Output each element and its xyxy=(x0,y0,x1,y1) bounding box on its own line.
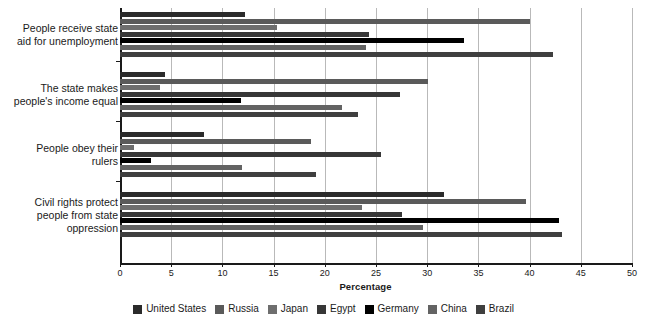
legend-swatch-icon xyxy=(476,305,485,314)
bar xyxy=(120,98,241,103)
bar xyxy=(120,225,423,230)
legend: United StatesRussiaJapanEgyptGermanyChin… xyxy=(0,303,647,315)
legend-label: Germany xyxy=(378,303,419,315)
x-tick-label: 10 xyxy=(217,268,227,279)
legend-item-brazil[interactable]: Brazil xyxy=(476,303,514,315)
legend-swatch-icon xyxy=(133,305,142,314)
bar xyxy=(120,19,530,24)
x-tick-mark xyxy=(478,263,479,267)
category-label-line: rulers xyxy=(6,155,118,168)
legend-item-united-states[interactable]: United States xyxy=(133,303,206,315)
legend-label: China xyxy=(441,303,467,315)
x-tick-mark xyxy=(120,263,121,267)
x-tick-label: 5 xyxy=(169,268,174,279)
category-label-line: People obey their xyxy=(6,142,118,155)
bar xyxy=(120,45,366,50)
bar xyxy=(120,192,444,197)
x-tick-mark xyxy=(274,263,275,267)
bar-group xyxy=(120,132,632,178)
legend-item-russia[interactable]: Russia xyxy=(215,303,259,315)
legend-swatch-icon xyxy=(428,305,437,314)
bar xyxy=(120,32,369,37)
x-tick-mark xyxy=(376,263,377,267)
plot-area xyxy=(120,8,632,263)
bar xyxy=(120,212,402,217)
x-axis-title: Percentage xyxy=(0,281,647,292)
category-label-line: People receive state xyxy=(6,22,118,35)
bar xyxy=(120,112,358,117)
category-label-line: aid for unemployment xyxy=(6,35,118,48)
category-tick xyxy=(116,61,120,62)
x-tick-mark xyxy=(530,263,531,267)
x-tick-label: 30 xyxy=(422,268,432,279)
x-tick-mark xyxy=(427,263,428,267)
legend-label: Russia xyxy=(228,303,259,315)
category-label: The state makespeople's income equal xyxy=(6,82,118,108)
x-tick-label: 45 xyxy=(576,268,586,279)
x-tick-label: 35 xyxy=(473,268,483,279)
bar xyxy=(120,85,160,90)
legend-swatch-icon xyxy=(317,305,326,314)
legend-item-japan[interactable]: Japan xyxy=(268,303,308,315)
legend-label: Japan xyxy=(281,303,308,315)
x-tick-label: 50 xyxy=(627,268,637,279)
x-tick-label: 40 xyxy=(525,268,535,279)
gridline-50 xyxy=(632,8,633,263)
legend-label: Brazil xyxy=(489,303,514,315)
bar xyxy=(120,72,165,77)
bar xyxy=(120,205,362,210)
category-label-line: oppression xyxy=(6,222,118,235)
legend-item-germany[interactable]: Germany xyxy=(365,303,419,315)
bar xyxy=(120,12,245,17)
legend-swatch-icon xyxy=(215,305,224,314)
x-tick-mark xyxy=(632,263,633,267)
legend-item-china[interactable]: China xyxy=(428,303,467,315)
legend-label: United States xyxy=(146,303,206,315)
bar-group xyxy=(120,192,632,238)
bar xyxy=(120,158,151,163)
category-label: People obey theirrulers xyxy=(6,142,118,168)
x-tick-mark xyxy=(171,263,172,267)
legend-swatch-icon xyxy=(365,305,374,314)
bar-group xyxy=(120,72,632,118)
bar xyxy=(120,79,428,84)
legend-swatch-icon xyxy=(268,305,277,314)
bar xyxy=(120,218,559,223)
category-label-line: The state makes xyxy=(6,82,118,95)
category-tick xyxy=(116,121,120,122)
category-label-line: people's income equal xyxy=(6,95,118,108)
bar xyxy=(120,232,562,237)
category-label-line: people from state xyxy=(6,209,118,222)
legend-label: Egypt xyxy=(330,303,356,315)
category-label: People receive stateaid for unemployment xyxy=(6,22,118,48)
x-tick-label: 25 xyxy=(371,268,381,279)
bar xyxy=(120,199,526,204)
category-tick xyxy=(116,181,120,182)
bar xyxy=(120,52,553,57)
x-tick-label: 0 xyxy=(117,268,122,279)
bar xyxy=(120,145,134,150)
bar xyxy=(120,25,277,30)
bar xyxy=(120,105,342,110)
legend-item-egypt[interactable]: Egypt xyxy=(317,303,356,315)
bar xyxy=(120,132,204,137)
x-tick-mark xyxy=(325,263,326,267)
category-label: Civil rights protectpeople from stateopp… xyxy=(6,196,118,235)
bar xyxy=(120,38,464,43)
bar xyxy=(120,92,400,97)
x-tick-label: 20 xyxy=(320,268,330,279)
bar xyxy=(120,152,381,157)
bar-group xyxy=(120,12,632,58)
x-tick-mark xyxy=(581,263,582,267)
bar xyxy=(120,172,316,177)
x-tick-label: 15 xyxy=(269,268,279,279)
bar-chart: People receive stateaid for unemployment… xyxy=(0,0,647,324)
bar xyxy=(120,165,242,170)
x-tick-mark xyxy=(222,263,223,267)
bar xyxy=(120,139,311,144)
category-label-line: Civil rights protect xyxy=(6,196,118,209)
